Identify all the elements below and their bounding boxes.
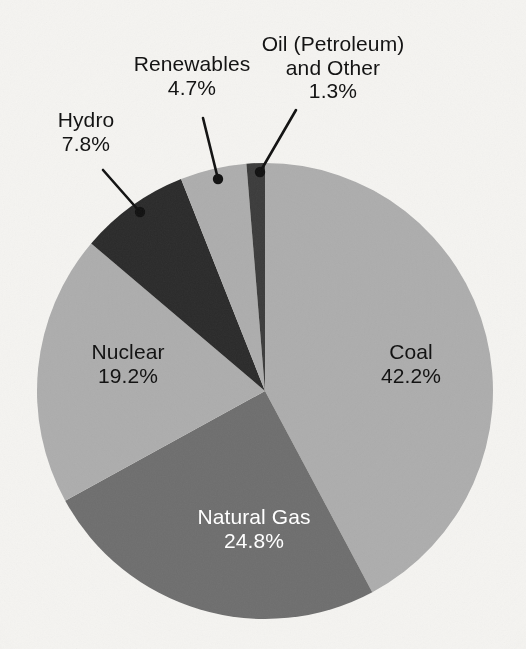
callout-label-hydro: Hydro 7.8% — [26, 108, 146, 155]
callout-value-oil: 1.3% — [240, 79, 426, 103]
callout-category-hydro: Hydro — [26, 108, 146, 132]
slice-value-nuclear: 19.2% — [60, 364, 196, 388]
callout-label-oil: Oil (Petroleum) and Other 1.3% — [240, 32, 426, 103]
slice-category-coal: Coal — [352, 340, 470, 364]
slice-category-natural-gas: Natural Gas — [176, 505, 332, 529]
slice-value-coal: 42.2% — [352, 364, 470, 388]
slice-label-coal: Coal 42.2% — [352, 340, 470, 388]
callout-category-oil-line1: Oil (Petroleum) — [240, 32, 426, 56]
slice-category-nuclear: Nuclear — [60, 340, 196, 364]
slice-label-natural-gas: Natural Gas 24.8% — [176, 505, 332, 553]
slice-label-nuclear: Nuclear 19.2% — [60, 340, 196, 388]
pie-chart-figure: Hydro 7.8% Renewables 4.7% Oil (Petroleu… — [0, 0, 526, 649]
callout-category-oil-line2: and Other — [240, 56, 426, 80]
slice-value-natural-gas: 24.8% — [176, 529, 332, 553]
callout-value-hydro: 7.8% — [26, 132, 146, 156]
